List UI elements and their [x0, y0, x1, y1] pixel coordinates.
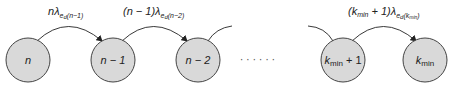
- ellipsis: · · · · · ·: [240, 54, 275, 65]
- svg-text:n − 2: n − 2: [186, 54, 211, 66]
- transition-arrow-kmin+1-to-kmin: [352, 27, 416, 42]
- transition-arrow-n-1-to-n-2: [122, 27, 187, 42]
- svg-text:n: n: [25, 54, 31, 66]
- transition-arrow-n-to-n-1: [37, 27, 102, 42]
- node-n-2: n − 2: [176, 38, 220, 82]
- state-chain-diagram: n n − 1 n − 2 kmin + 1 kmin · · · · · · …: [0, 0, 458, 88]
- node-n-1: n − 1: [91, 38, 135, 82]
- svg-text:n − 1: n − 1: [101, 54, 126, 66]
- node-kmin-plus-1: kmin + 1: [321, 38, 365, 82]
- transition-arrow-in-kmin+1: [308, 26, 333, 41]
- rate-label-kmin-plus-1: (kmin + 1)λed(kmin): [348, 5, 420, 20]
- rate-label-n-1: (n − 1)λed(n−2): [123, 5, 184, 20]
- node-kmin: kmin: [403, 38, 447, 82]
- rate-label-n: nλed(n−1): [48, 5, 83, 20]
- node-n: n: [6, 38, 50, 82]
- transition-arrow-n-2-out: [208, 26, 232, 41]
